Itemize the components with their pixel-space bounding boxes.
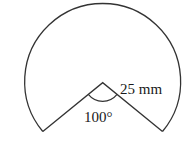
angle-label: 100° [84, 109, 113, 125]
angle-marker-arc [88, 94, 117, 101]
radius-label: 25 mm [120, 81, 162, 97]
sector-diagram: 25 mm 100° [0, 0, 189, 145]
